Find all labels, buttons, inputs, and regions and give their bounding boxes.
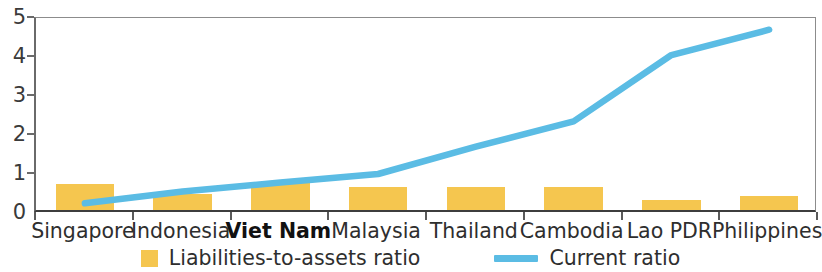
x-axis-label: Philippines xyxy=(712,220,822,244)
x-axis-label: Viet Nam xyxy=(226,220,332,244)
square-swatch-icon xyxy=(141,250,158,267)
x-axis-label: Lao PDR xyxy=(627,220,712,244)
legend-item-liabilities-to-assets-ratio: Liabilities-to-assets ratio xyxy=(141,248,421,269)
y-tick-label: 2 xyxy=(13,124,26,145)
line-swatch-icon xyxy=(494,255,538,262)
y-tick-mark xyxy=(27,55,34,57)
legend-label-liabilities-to-assets-ratio: Liabilities-to-assets ratio xyxy=(169,248,421,269)
y-tick-label: 1 xyxy=(13,163,26,184)
y-tick-label: 4 xyxy=(13,46,26,67)
y-tick-label: 0 xyxy=(13,202,26,223)
x-axis-label: Indonesia xyxy=(131,220,230,244)
y-tick-mark xyxy=(27,133,34,135)
x-axis-label: Singapore xyxy=(31,220,134,244)
x-axis-label: Cambodia xyxy=(520,220,624,244)
y-tick-label: 3 xyxy=(13,85,26,106)
y-tick-mark xyxy=(27,16,34,18)
x-tick-mark xyxy=(425,212,427,220)
x-axis-label: Thailand xyxy=(430,220,518,244)
y-tick-mark xyxy=(27,94,34,96)
y-tick-label: 5 xyxy=(13,7,26,28)
y-tick-mark xyxy=(27,172,34,174)
plot-area xyxy=(34,17,816,212)
y-axis: 012345 xyxy=(0,0,34,232)
line-series-layer xyxy=(36,18,815,210)
x-axis-label: Malaysia xyxy=(331,220,421,244)
current-ratio-line xyxy=(36,18,818,213)
legend-item-current-ratio: Current ratio xyxy=(494,248,680,269)
legend-label-current-ratio: Current ratio xyxy=(549,248,680,269)
x-axis: SingaporeIndonesiaViet NamMalaysiaThaila… xyxy=(34,212,816,244)
chart-legend: Liabilities-to-assets ratio Current rati… xyxy=(0,244,821,272)
